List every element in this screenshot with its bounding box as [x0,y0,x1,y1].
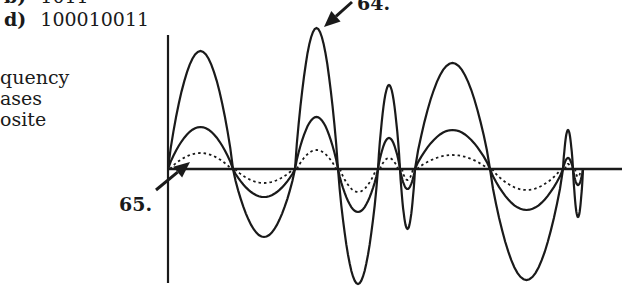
question-64-label: 64. [357,0,390,13]
pointer-arrows [156,2,352,190]
dotted-wave-segment [492,169,561,190]
dotted-wave-segment [402,169,413,180]
medium-amplitude-wave-segment [378,138,400,169]
large-amplitude-wave-segment [338,169,378,284]
large-amplitude-wave-segment [490,169,563,280]
waveform-diagram [0,0,626,293]
large-amplitude-wave-segment [233,169,295,237]
waveforms [168,28,583,284]
large-amplitude-wave-segment [168,51,233,169]
question-65-label: 65. [119,194,152,214]
medium-amplitude-wave-segment [295,117,338,169]
dotted-wave-segment [417,155,488,169]
dotted-wave-segment [380,158,398,169]
dotted-wave-segment [340,169,376,192]
arrow-65-icon-shaft [156,172,178,190]
medium-amplitude-wave-segment [490,169,563,210]
dotted-wave-segment [235,169,293,183]
medium-amplitude-wave-segment [338,169,378,212]
large-amplitude-wave-segment [295,28,338,169]
large-amplitude-wave-segment [415,63,490,169]
arrow-64-icon-shaft [336,2,352,16]
dotted-wave-segment [297,150,336,169]
axes [168,35,622,283]
